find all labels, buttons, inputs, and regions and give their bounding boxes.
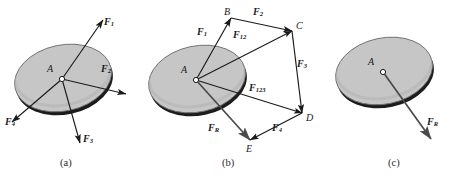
- origin-hub-c: [380, 69, 385, 74]
- point-label-d: D: [306, 112, 313, 123]
- force-label-f4-a: F4: [5, 116, 15, 127]
- point-label-a-origin: A: [47, 63, 53, 74]
- force-label-f12-b: F12: [233, 29, 246, 40]
- force-label-f4-b: F4: [272, 122, 282, 133]
- panel-c-graphics: [329, 23, 440, 139]
- panel-caption-c: (c): [388, 157, 400, 168]
- force-label-fr-b: FR: [208, 122, 219, 133]
- point-label-c: C: [296, 20, 303, 31]
- force-label-f3-a: F3: [83, 133, 93, 144]
- origin-hub-b: [193, 77, 198, 82]
- point-label-e: E: [246, 143, 252, 154]
- force-label-fr-c: FR: [427, 116, 438, 127]
- force-label-f1-b: F1: [197, 26, 207, 37]
- force-label-f2-b: F2: [253, 6, 263, 17]
- panel-caption-a: (a): [60, 157, 72, 168]
- panel-caption-b: (b): [222, 157, 234, 168]
- force-label-f1-a: F1: [104, 16, 114, 27]
- panel-a-graphics: [8, 20, 126, 143]
- point-label-c-origin: A: [368, 56, 374, 67]
- edge-cd-f3-b: [292, 31, 302, 113]
- force-polygon-figure: A F1 F2 F3 F4 (a) A B C D E F1 F2 F3 F4 …: [0, 0, 455, 189]
- origin-hub-a: [59, 76, 64, 81]
- force-label-f3-b: F3: [297, 58, 307, 69]
- force-label-f123-b: F123: [249, 82, 266, 93]
- force-label-f2-a: F2: [101, 63, 111, 74]
- point-label-b-origin: A: [181, 64, 187, 75]
- point-label-b: B: [224, 6, 230, 17]
